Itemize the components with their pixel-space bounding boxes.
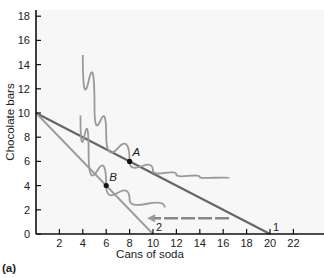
indifference-chart: 12AB 024681012141618246810121416182022 C… [0,0,324,277]
svg-text:1: 1 [273,221,279,233]
svg-text:12: 12 [18,83,30,95]
svg-text:16: 16 [217,237,229,249]
svg-text:A: A [132,146,141,158]
panel-label: (a) [2,262,16,274]
svg-text:6: 6 [24,155,30,167]
x-axis-label: Cans of soda [116,248,184,260]
point-A [127,159,132,164]
svg-text:2: 2 [56,237,62,249]
svg-text:20: 20 [264,237,276,249]
svg-text:14: 14 [194,237,206,249]
svg-text:4: 4 [24,180,30,192]
svg-text:10: 10 [18,107,30,119]
svg-text:6: 6 [103,237,109,249]
svg-text:22: 22 [287,237,299,249]
svg-text:2: 2 [156,221,162,233]
plot-area [36,10,324,234]
svg-text:16: 16 [18,34,30,46]
y-axis-label: Chocolate bars [4,83,16,161]
svg-text:8: 8 [24,131,30,143]
svg-text:0: 0 [24,228,30,240]
svg-text:2: 2 [24,204,30,216]
svg-text:B: B [109,171,117,183]
svg-text:18: 18 [18,10,30,22]
point-B [104,183,109,188]
svg-text:4: 4 [80,237,86,249]
svg-text:18: 18 [240,237,252,249]
svg-text:14: 14 [18,59,30,71]
